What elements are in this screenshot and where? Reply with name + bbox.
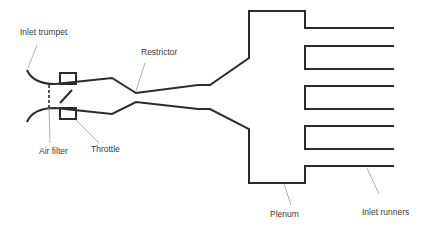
label-air-filter: Air filter	[39, 146, 68, 156]
label-throttle: Throttle	[91, 144, 120, 154]
throttle-plate	[60, 90, 72, 103]
label-inlet-trumpet: Inlet trumpet	[20, 27, 67, 37]
label-plenum: Plenum	[270, 209, 299, 219]
upper-wall	[27, 11, 394, 93]
runner-2	[305, 86, 394, 109]
runner-3	[305, 126, 394, 149]
leader-plenum	[284, 184, 291, 205]
leader-inlet-runners	[367, 168, 379, 194]
lower-wall	[27, 102, 394, 183]
leader-air-filter	[49, 108, 50, 143]
runner-1	[305, 46, 394, 69]
leader-inlet-trumpet	[28, 45, 37, 68]
label-inlet-runners: Inlet runners	[362, 207, 409, 217]
leader-throttle	[76, 120, 99, 143]
label-restrictor: Restrictor	[141, 47, 177, 57]
leader-restrictor	[136, 63, 145, 91]
